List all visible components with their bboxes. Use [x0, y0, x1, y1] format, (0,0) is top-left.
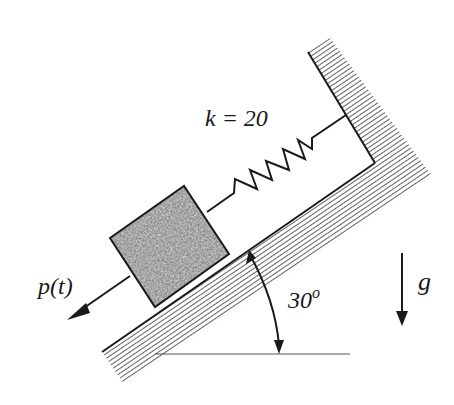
angle-unit: o — [312, 284, 320, 301]
force-arrow — [67, 276, 130, 320]
force-label: p(t) — [36, 273, 73, 299]
diagram-canvas: k = 20 p(t) 30o g — [0, 0, 454, 405]
gravity-label: g — [418, 267, 431, 296]
angle-label: 30o — [287, 284, 320, 313]
spring-constant-label: k = 20 — [205, 105, 268, 131]
angle-value: 30 — [287, 287, 312, 313]
gravity-arrow — [396, 253, 408, 326]
